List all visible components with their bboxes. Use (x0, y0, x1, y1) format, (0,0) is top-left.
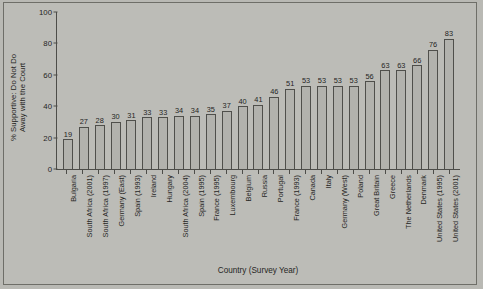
x-tick-slot (123, 170, 139, 174)
bar-slot: 40 (235, 12, 251, 169)
x-tick-slot (314, 170, 330, 174)
x-tick-slot (59, 170, 75, 174)
bar-slot: 19 (60, 12, 76, 169)
x-label-slot: Bulgaria (59, 175, 75, 257)
bar-slot: 51 (282, 12, 298, 169)
x-tick-mark (401, 170, 402, 174)
x-tick-slot (362, 170, 378, 174)
bar-series: 1927283031333334343537404146515353535356… (57, 12, 460, 169)
x-tick-mark (66, 170, 67, 174)
bar-slot: 56 (362, 12, 378, 169)
bar-value-label: 34 (175, 106, 183, 115)
x-tick-mark (289, 170, 290, 174)
x-tick-mark (417, 170, 418, 174)
bar-value-label: 56 (365, 72, 373, 81)
x-tick-mark (82, 170, 83, 174)
x-axis-title: Country (Survey Year) (56, 266, 460, 275)
bar-value-label: 30 (111, 112, 119, 121)
bar-slot: 63 (393, 12, 409, 169)
bar: 33 (158, 117, 168, 169)
bar-slot: 53 (330, 12, 346, 169)
bar: 33 (142, 117, 152, 169)
x-label-slot: Luxembourg (218, 175, 234, 257)
x-label-slot: Ireland (139, 175, 155, 257)
x-label-slot: Russia (250, 175, 266, 257)
y-axis-title: % Supportive: Do Not Do Away with the Co… (9, 9, 28, 185)
x-label-slot: Germany (East) (107, 175, 123, 257)
x-tick-mark (385, 170, 386, 174)
bar-slot: 33 (155, 12, 171, 169)
bar-value-label: 53 (318, 76, 326, 85)
x-axis-labels: BulgariaSouth Africa (2001)South Africa … (56, 175, 460, 257)
x-tick-slot (409, 170, 425, 174)
bar-value-label: 41 (254, 95, 262, 104)
x-label-slot: Spain (1995) (186, 175, 202, 257)
x-tick-slot (441, 170, 457, 174)
bar-chart-figure: % Supportive: Do Not Do Away with the Co… (0, 0, 483, 289)
bar: 53 (301, 86, 311, 169)
x-tick-mark (242, 170, 243, 174)
x-tick-slot (250, 170, 266, 174)
bar-slot: 66 (409, 12, 425, 169)
bar: 34 (174, 116, 184, 169)
bar: 53 (333, 86, 343, 169)
x-tick-slot (218, 170, 234, 174)
x-tick-mark (226, 170, 227, 174)
x-tick-mark (369, 170, 370, 174)
x-tick-slot (75, 170, 91, 174)
x-tick-mark (321, 170, 322, 174)
bar-slot: 34 (171, 12, 187, 169)
bar-value-label: 51 (286, 79, 294, 88)
x-label-slot: United States (2001) (441, 175, 457, 257)
bar-value-label: 33 (143, 108, 151, 117)
x-tick-mark (353, 170, 354, 174)
x-tick-slot (282, 170, 298, 174)
x-tick-mark (194, 170, 195, 174)
x-tick-slot (170, 170, 186, 174)
bar-value-label: 31 (127, 111, 135, 120)
x-axis-ticks (56, 170, 460, 174)
x-tick-slot (155, 170, 171, 174)
x-tick-slot (377, 170, 393, 174)
bar-slot: 53 (346, 12, 362, 169)
bar-value-label: 40 (238, 97, 246, 106)
x-tick-mark (433, 170, 434, 174)
bar-value-label: 63 (381, 61, 389, 70)
bar: 30 (111, 122, 121, 169)
x-tick-mark (162, 170, 163, 174)
bar-value-label: 63 (397, 61, 405, 70)
bar: 83 (444, 39, 454, 169)
bar: 51 (285, 89, 295, 169)
bar-slot: 46 (266, 12, 282, 169)
x-label-slot: Canada (298, 175, 314, 257)
x-label-slot: South Africa (2004) (170, 175, 186, 257)
bar: 37 (222, 111, 232, 169)
x-tick-mark (146, 170, 147, 174)
bar-value-label: 19 (64, 130, 72, 139)
x-label-slot: Denmark (409, 175, 425, 257)
x-tick-slot (298, 170, 314, 174)
bar-value-label: 83 (445, 29, 453, 38)
bar-value-label: 53 (302, 76, 310, 85)
x-tick-mark (210, 170, 211, 174)
bar-value-label: 37 (223, 101, 231, 110)
bar-value-label: 35 (207, 105, 215, 114)
bar-slot: 53 (298, 12, 314, 169)
bar: 53 (349, 86, 359, 169)
x-tick-slot (346, 170, 362, 174)
x-tick-mark (273, 170, 274, 174)
bar-slot: 30 (108, 12, 124, 169)
x-label-slot: Greece (377, 175, 393, 257)
bar-slot: 76 (425, 12, 441, 169)
x-tick-slot (202, 170, 218, 174)
bar: 28 (95, 125, 105, 169)
bar-slot: 37 (219, 12, 235, 169)
x-tick-mark (449, 170, 450, 174)
bar-value-label: 33 (159, 108, 167, 117)
bar: 19 (63, 139, 73, 169)
x-tick-slot (139, 170, 155, 174)
bar-value-label: 53 (334, 76, 342, 85)
x-label-slot: South Africa (1997) (91, 175, 107, 257)
plot-area: 020406080100 192728303133333434353740414… (56, 12, 460, 170)
x-tick-mark (114, 170, 115, 174)
